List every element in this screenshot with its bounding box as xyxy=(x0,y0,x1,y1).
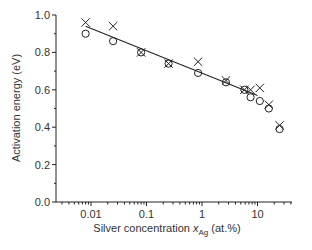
x-axis-title-sub: Ag xyxy=(198,228,208,237)
y-tick-label: 1.0 xyxy=(35,9,50,21)
cross-marker xyxy=(109,22,117,30)
x-tick-label: 10 xyxy=(251,208,263,220)
y-tick-label: 0.0 xyxy=(35,196,50,208)
cross-markers xyxy=(81,18,283,129)
y-tick-label: 0.4 xyxy=(35,121,50,133)
activation-energy-chart: 0.00.20.40.60.81.0 0.010.1110 Activation… xyxy=(0,0,312,250)
circle-marker xyxy=(256,97,263,104)
x-axis-title-post: (at.%) xyxy=(208,222,240,234)
x-axis: 0.010.1110 xyxy=(56,202,292,220)
y-tick-label: 0.6 xyxy=(35,84,50,96)
cross-marker xyxy=(81,18,89,26)
cross-marker xyxy=(256,84,264,92)
x-axis-title-pre: Silver concentration xyxy=(93,222,193,234)
x-tick-label: 0.01 xyxy=(80,208,101,220)
circle-marker xyxy=(82,30,89,37)
circle-marker xyxy=(109,38,116,45)
circle-markers xyxy=(82,30,283,133)
cross-marker xyxy=(137,48,145,56)
cross-marker xyxy=(194,58,202,66)
circle-marker xyxy=(265,105,272,112)
y-axis: 0.00.20.40.60.81.0 xyxy=(35,9,56,208)
circle-marker xyxy=(276,125,283,132)
x-axis-title: Silver concentration xAg (at.%) xyxy=(93,222,240,237)
y-tick-label: 0.8 xyxy=(35,46,50,58)
x-tick-label: 1 xyxy=(199,208,205,220)
circle-marker xyxy=(247,94,254,101)
cross-marker xyxy=(265,101,273,109)
y-tick-label: 0.2 xyxy=(35,159,50,171)
x-tick-label: 0.1 xyxy=(139,208,154,220)
cross-marker xyxy=(164,59,172,67)
y-axis-title: Activation energy (eV) xyxy=(10,54,22,162)
cross-marker xyxy=(275,121,283,129)
